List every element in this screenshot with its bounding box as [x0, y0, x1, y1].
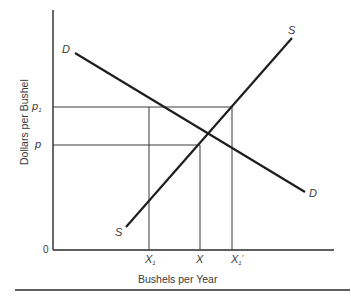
demand-label-start: D: [62, 43, 70, 55]
demand-label-end: D: [309, 187, 317, 199]
supply-label-start: S: [115, 226, 123, 238]
p-label: p: [34, 138, 41, 150]
x1-prime-label: X1′: [230, 253, 244, 266]
supply-curve: [126, 38, 292, 227]
origin-label: 0: [43, 244, 49, 255]
x-label: X: [195, 253, 204, 265]
demand-curve: [75, 53, 305, 192]
p1-label: p1: [31, 100, 41, 113]
y-axis-title: Dollars per Bushel: [18, 79, 30, 165]
x1-label: X1: [144, 253, 156, 266]
supply-label-end: S: [288, 24, 296, 36]
x-axis-title: Bushels per Year: [138, 273, 218, 285]
supply-demand-diagram: D D S S p1 p 0 X1 X X1′ Bushels per Year…: [0, 0, 351, 303]
